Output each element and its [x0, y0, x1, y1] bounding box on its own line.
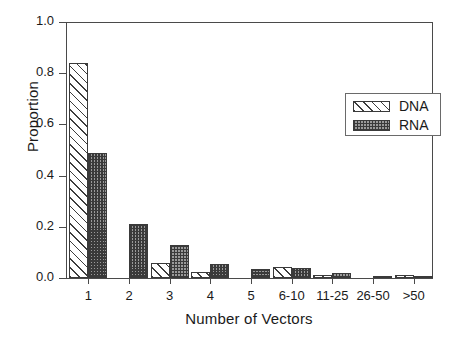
legend-label-dna: DNA	[399, 99, 429, 113]
bar-rna-3	[170, 245, 189, 278]
y-tick-label: 0.0	[36, 269, 54, 284]
legend-swatch-dna-icon	[353, 101, 390, 112]
x-tick	[292, 278, 293, 284]
bar-rna-4	[210, 264, 229, 278]
y-tick-label: 0.6	[36, 115, 54, 130]
x-tick-label: >50	[403, 288, 425, 303]
x-tick	[129, 278, 130, 284]
bar-rna-26-50	[373, 276, 392, 278]
y-tick: 0.0	[59, 278, 66, 279]
bar-rna-2	[129, 224, 148, 278]
x-tick	[251, 278, 252, 284]
y-tick-label: 0.2	[36, 218, 54, 233]
chart-figure: Proportion 0.00.20.40.60.81.0 123456-101…	[0, 0, 449, 338]
legend-item-dna: DNA	[353, 98, 440, 114]
y-tick-label: 0.4	[36, 167, 54, 182]
bar-rna-5	[251, 269, 270, 278]
bar-dna-11-25	[313, 275, 332, 278]
chart-legend: DNA RNA	[345, 93, 441, 136]
axis-top-spine	[66, 22, 433, 23]
y-tick: 0.2	[59, 227, 66, 228]
y-tick-label: 0.8	[36, 64, 54, 79]
x-tick	[88, 278, 89, 284]
plot-area: 0.00.20.40.60.81.0 123456-1011-2526-50>5…	[66, 22, 432, 278]
y-tick: 1.0	[59, 22, 66, 23]
x-tick-label: 4	[207, 288, 214, 303]
y-tick: 0.4	[59, 176, 66, 177]
x-tick-label: 2	[125, 288, 132, 303]
bar-rna-6-10	[292, 268, 311, 278]
x-tick	[332, 278, 333, 284]
x-tick	[373, 278, 374, 284]
legend-swatch-rna-icon	[353, 120, 390, 131]
axis-bottom-spine	[66, 278, 433, 279]
x-tick	[210, 278, 211, 284]
y-tick: 0.6	[59, 124, 66, 125]
axis-left-spine	[66, 22, 67, 279]
y-tick: 0.8	[59, 73, 66, 74]
x-tick	[170, 278, 171, 284]
y-tick-label: 1.0	[36, 13, 54, 28]
bar-dna-6-10	[273, 267, 292, 278]
x-tick	[414, 278, 415, 284]
bar-rna->50	[414, 276, 433, 278]
x-tick-label: 5	[247, 288, 254, 303]
x-tick-label: 3	[166, 288, 173, 303]
bar-rna-1	[88, 153, 107, 278]
x-axis-title: Number of Vectors	[66, 310, 432, 327]
legend-item-rna: RNA	[353, 117, 440, 133]
bar-dna-3	[151, 263, 170, 278]
x-tick-label: 26-50	[356, 288, 389, 303]
x-tick-label: 11-25	[316, 288, 348, 303]
legend-label-rna: RNA	[399, 118, 429, 132]
bar-dna-1	[69, 63, 88, 278]
x-tick-label: 1	[85, 288, 92, 303]
bar-dna-4	[191, 272, 210, 278]
axis-right-spine	[432, 22, 433, 279]
bar-dna->50	[395, 275, 414, 278]
bar-rna-11-25	[332, 273, 351, 278]
x-tick-label: 6-10	[279, 288, 305, 303]
